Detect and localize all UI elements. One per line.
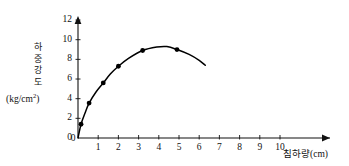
y-axis-tick-label: 8 xyxy=(44,54,72,64)
data-point xyxy=(101,81,106,86)
data-curve xyxy=(78,46,205,138)
data-point xyxy=(175,47,180,52)
data-point xyxy=(87,101,92,106)
x-axis-tick-label: 3 xyxy=(129,143,149,153)
y-axis-tick-label: 10 xyxy=(44,35,72,45)
y-axis-tick-label: 4 xyxy=(44,94,72,104)
x-axis-tick-label: 4 xyxy=(149,143,169,153)
x-axis-title-name: 침하량 xyxy=(283,148,310,159)
x-axis-tick-label: 7 xyxy=(209,143,229,153)
y-axis-unit-tail: ) xyxy=(36,94,39,104)
x-axis-tick-label: 2 xyxy=(108,143,128,153)
y-axis-title: 하중강도 xyxy=(31,42,45,88)
x-axis-tick-label: 9 xyxy=(250,143,270,153)
y-axis-unit-base: (kg/cm xyxy=(6,94,33,104)
y-axis-tick-label: 6 xyxy=(44,74,72,84)
y-axis-title-char: 하 xyxy=(31,42,45,54)
data-point xyxy=(140,48,145,53)
x-axis-title-unit: (cm) xyxy=(310,149,328,159)
y-axis-title-char: 도 xyxy=(31,77,45,89)
load-settlement-chart: 024681012 012345678910 하중강도 (kg/cm2) 침하량… xyxy=(0,0,349,166)
data-point xyxy=(79,122,84,127)
x-axis-tick-label: 0 xyxy=(63,134,83,144)
x-axis-tick-label: 6 xyxy=(189,143,209,153)
x-axis-ticks xyxy=(98,135,280,140)
y-axis-unit-label: (kg/cm2) xyxy=(6,94,39,104)
y-axis-title-char: 중 xyxy=(31,54,45,66)
x-axis-tick-label: 8 xyxy=(230,143,250,153)
y-axis-tick-label: 2 xyxy=(44,113,72,123)
data-point-markers xyxy=(79,47,180,127)
data-point xyxy=(116,64,121,69)
x-axis-tick-label: 5 xyxy=(169,143,189,153)
x-axis-title: 침하량(cm) xyxy=(283,146,328,160)
x-axis-tick-label: 1 xyxy=(88,143,108,153)
y-axis-tick-label: 12 xyxy=(44,15,72,25)
x-axis-arrowhead xyxy=(322,135,330,142)
y-axis-title-char: 강 xyxy=(31,65,45,77)
